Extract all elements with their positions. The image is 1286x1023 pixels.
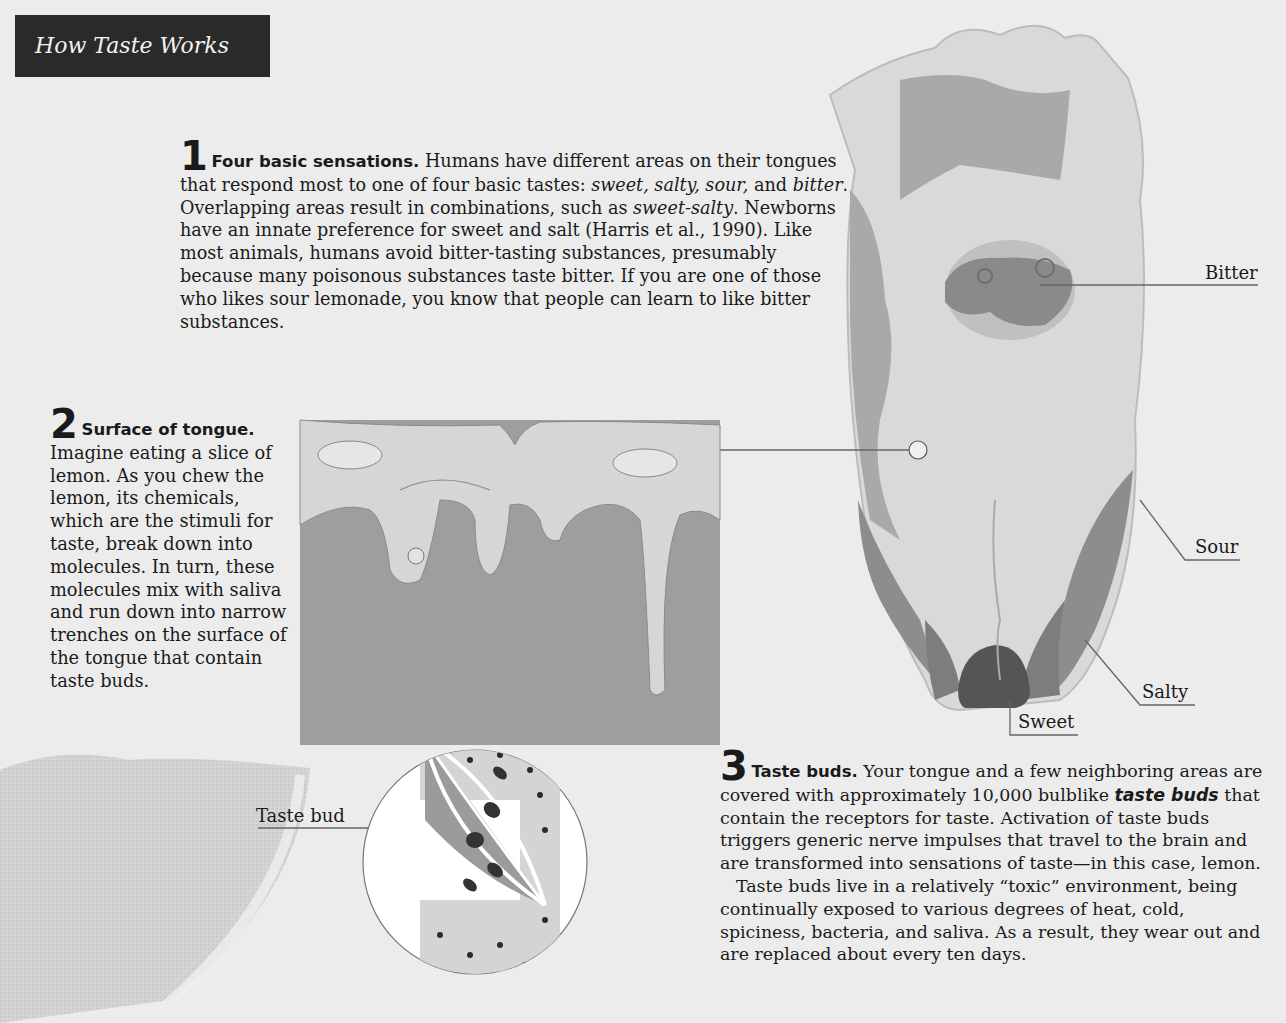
section-four-basic-sensations: 1 Four basic sensations. Humans have dif… [180,140,850,333]
label-salty: Salty [1142,681,1188,704]
label-sour: Sour [1195,536,1238,559]
section-number: 1 [180,133,206,179]
section-number: 2 [50,401,76,447]
tongue-illustration [830,26,1144,710]
section-taste-buds: 3 Taste buds. Your tongue and a few neig… [720,750,1265,966]
tongue-surface-cross-section [300,420,720,745]
taste-bud-magnified-view [363,740,587,990]
section-body: Imagine eating a slice of lemon. As you … [50,442,287,691]
section-heading: Taste buds. [751,762,857,781]
section-number: 3 [720,743,746,789]
key-term: taste buds [1114,785,1218,805]
section-surface-of-tongue: 2 Surface of tongue. Imagine eating a sl… [50,408,290,693]
page: How Taste Works [0,0,1286,1023]
label-bitter: Bitter [1205,262,1258,285]
section-heading: Four basic sensations. [211,152,419,171]
label-taste-bud: Taste bud [256,805,345,828]
section-heading: Surface of tongue. [82,420,255,439]
lemon-slice-illustration [0,754,310,1023]
label-sweet: Sweet [1018,711,1074,734]
section-paragraph: Taste buds live in a relatively “toxic” … [720,875,1265,966]
